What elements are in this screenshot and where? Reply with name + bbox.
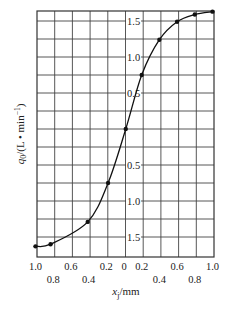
x-axis-label: xj/mm (111, 285, 140, 300)
data-point (175, 20, 179, 24)
x-tick-label: 0 (121, 261, 126, 272)
data-point (140, 73, 144, 77)
y-tick-label: 1.0 (127, 52, 140, 63)
x-tick-label: 0.2 (100, 261, 113, 272)
y-tick-label: 0.5 (127, 88, 140, 99)
x-tick-label: 0.2 (135, 261, 148, 272)
data-point (157, 38, 161, 42)
x-tick-label: 0.4 (82, 274, 96, 285)
data-point (193, 12, 197, 16)
x-tick-label: 1.0 (206, 261, 219, 272)
y-tick-label: 1.5 (127, 16, 140, 27)
data-point (86, 220, 90, 224)
x-tick-label: 0.4 (153, 274, 167, 285)
chart: 1.51.00.50.51.01.5 1.00.60.200.20.61.00.… (0, 0, 236, 321)
data-point (124, 127, 128, 131)
data-point (33, 244, 37, 248)
x-tick-label: 1.0 (29, 261, 42, 272)
y-axis-label: q0/(L • min−1) (13, 103, 28, 164)
x-tick-labels: 1.00.60.200.20.61.00.80.40.40.8 (29, 261, 219, 285)
data-point (48, 242, 52, 246)
x-tick-label: 0.8 (188, 274, 201, 285)
data-point (106, 181, 110, 185)
y-tick-label: 0.5 (127, 160, 140, 171)
x-tick-label: 0.6 (64, 261, 77, 272)
data-point (210, 9, 214, 13)
y-tick-label: 1.0 (127, 196, 140, 207)
y-tick-label: 1.5 (127, 232, 140, 243)
x-tick-label: 0.6 (171, 261, 184, 272)
grid (37, 11, 214, 257)
x-tick-label: 0.8 (47, 274, 60, 285)
